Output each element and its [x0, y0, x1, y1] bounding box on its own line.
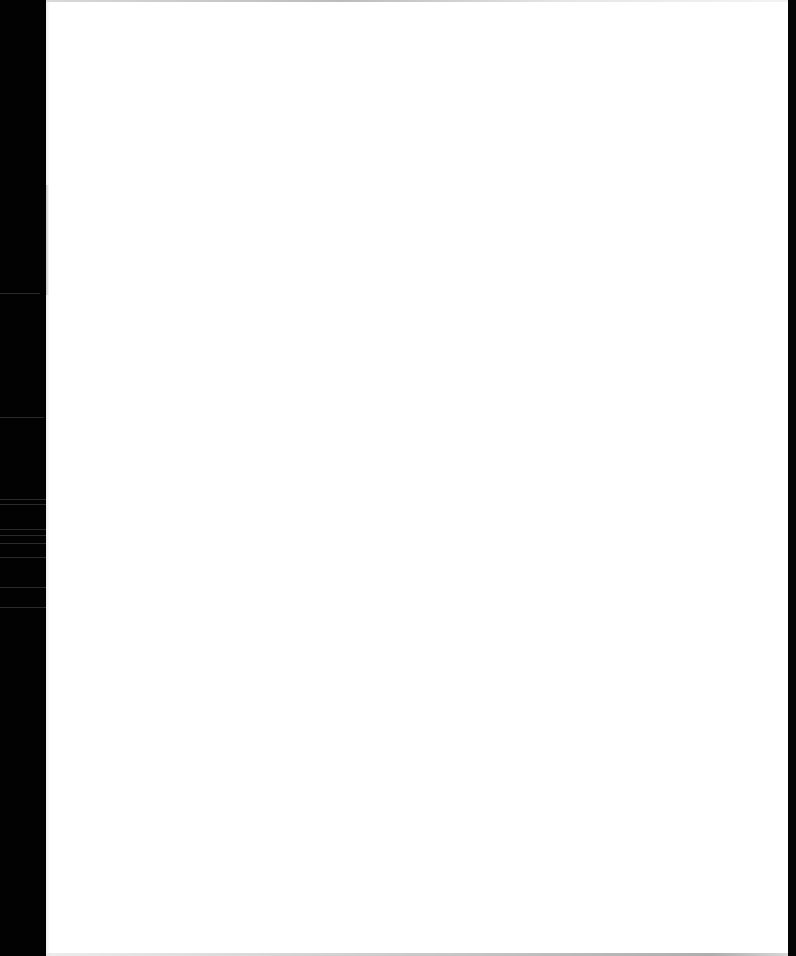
- scanner-background-right: [788, 0, 796, 956]
- blank-page: [46, 0, 788, 956]
- scan-streak: [0, 499, 46, 500]
- scanned-document: [0, 0, 796, 956]
- scan-streak: [0, 504, 46, 505]
- page-edge-shadow: [46, 185, 49, 295]
- scan-streak: [0, 529, 46, 530]
- scan-streak: [0, 535, 46, 536]
- scanner-background-left: [0, 0, 47, 956]
- scan-streak: [0, 587, 46, 588]
- page-top-edge: [46, 0, 788, 2]
- scan-streak: [0, 557, 46, 558]
- scan-streak: [0, 607, 46, 608]
- scan-streak: [0, 543, 46, 544]
- scan-streak: [0, 417, 44, 418]
- scan-streak: [0, 293, 40, 294]
